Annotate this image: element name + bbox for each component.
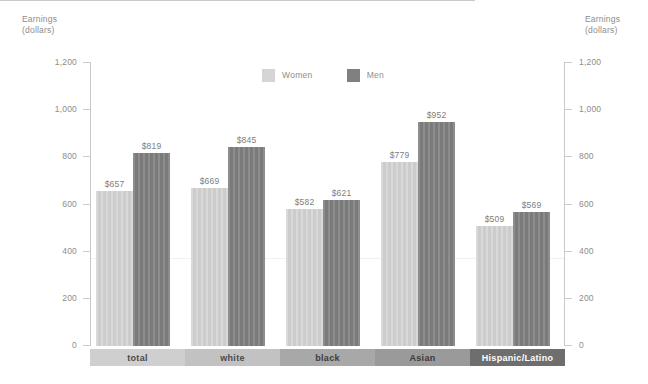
bar-men-black[interactable]: $621 [323, 200, 360, 346]
bar-value-label: $509 [485, 214, 505, 224]
bar-women-white[interactable]: $669 [191, 188, 228, 346]
category-label-white[interactable]: white [185, 349, 280, 366]
y-tick-label-left: 400 [33, 246, 77, 256]
category-label-black[interactable]: black [280, 349, 375, 366]
y-tick-label-wrap-right: 400 [579, 246, 623, 256]
y-axis-title-left: Earnings (dollars) [22, 14, 57, 35]
y-tick-label-wrap-left: 800 [33, 151, 77, 161]
y-tick-right-200 [565, 298, 572, 299]
category-label-band: totalwhiteblackAsianHispanic/Latino [90, 349, 565, 366]
y-tick-label-left: 800 [33, 151, 77, 161]
y-tick-label-left: 1,200 [33, 57, 77, 67]
y-axis-title-right: Earnings (dollars) [585, 14, 620, 35]
bar-group-black: $582$621 [280, 62, 375, 346]
y-tick-label-right: 800 [579, 151, 623, 161]
y-tick-label-wrap-left: 200 [33, 293, 77, 303]
bar-women-hispanic-latino[interactable]: $509 [476, 226, 513, 346]
y-tick-label-left: 600 [33, 199, 77, 209]
y-tick-right-0 [565, 345, 572, 346]
y-tick-label-wrap-right: 1,000 [579, 104, 623, 114]
x-axis-baseline [0, 0, 475, 1]
y-tick-right-800 [565, 156, 572, 157]
y-tick-right-600 [565, 204, 572, 205]
bar-value-label: $845 [237, 135, 257, 145]
y-tick-label-right: 0 [579, 340, 623, 350]
bar-men-hispanic-latino[interactable]: $569 [513, 212, 550, 346]
y-tick-label-wrap-right: 600 [579, 199, 623, 209]
category-label-hispanic-latino[interactable]: Hispanic/Latino [470, 349, 565, 366]
y-tick-left-200 [83, 298, 90, 299]
y-tick-label-wrap-right: 800 [579, 151, 623, 161]
y-tick-left-600 [83, 204, 90, 205]
bar-value-label: $657 [105, 179, 125, 189]
y-tick-label-wrap-right: 0 [579, 340, 623, 350]
bar-women-black[interactable]: $582 [286, 209, 323, 346]
y-tick-label-wrap-left: 1,000 [33, 104, 77, 114]
bar-value-label: $582 [295, 197, 315, 207]
y-tick-right-1200 [565, 62, 572, 63]
y-tick-label-right: 200 [579, 293, 623, 303]
bar-women-asian[interactable]: $779 [381, 162, 418, 346]
y-tick-label-wrap-right: 200 [579, 293, 623, 303]
bar-value-label: $952 [427, 110, 447, 120]
y-tick-label-right: 1,000 [579, 104, 623, 114]
y-tick-left-1000 [83, 109, 90, 110]
y-tick-label-left: 200 [33, 293, 77, 303]
category-label-total[interactable]: total [90, 349, 185, 366]
bar-men-total[interactable]: $819 [133, 153, 170, 346]
y-tick-label-wrap-left: 400 [33, 246, 77, 256]
bar-men-asian[interactable]: $952 [418, 122, 455, 347]
plot-area: $657$819$669$845$582$621$779$952$509$569 [90, 62, 565, 346]
y-tick-left-800 [83, 156, 90, 157]
category-label-asian[interactable]: Asian [375, 349, 470, 366]
y-tick-right-400 [565, 251, 572, 252]
y-tick-left-0 [83, 345, 90, 346]
bar-group-white: $669$845 [185, 62, 280, 346]
bar-chart: Earnings (dollars) Earnings (dollars) Wo… [0, 0, 648, 384]
y-tick-label-left: 0 [33, 340, 77, 350]
y-tick-label-right: 600 [579, 199, 623, 209]
bar-men-white[interactable]: $845 [228, 147, 265, 346]
y-tick-label-right: 400 [579, 246, 623, 256]
y-tick-label-wrap-left: 1,200 [33, 57, 77, 67]
y-tick-left-400 [83, 251, 90, 252]
y-tick-label-right: 1,200 [579, 57, 623, 67]
y-tick-label-left: 1,000 [33, 104, 77, 114]
y-tick-label-wrap-left: 0 [33, 340, 77, 350]
bar-group-asian: $779$952 [375, 62, 470, 346]
bar-value-label: $819 [142, 141, 162, 151]
bar-value-label: $669 [200, 176, 220, 186]
bar-group-total: $657$819 [90, 62, 185, 346]
y-tick-label-wrap-right: 1,200 [579, 57, 623, 67]
bar-value-label: $569 [522, 200, 542, 210]
bar-group-hispanic-latino: $509$569 [470, 62, 565, 346]
y-tick-left-1200 [83, 62, 90, 63]
y-tick-right-1000 [565, 109, 572, 110]
bar-value-label: $621 [332, 188, 352, 198]
y-tick-label-wrap-left: 600 [33, 199, 77, 209]
bar-women-total[interactable]: $657 [96, 191, 133, 346]
bar-value-label: $779 [390, 150, 410, 160]
